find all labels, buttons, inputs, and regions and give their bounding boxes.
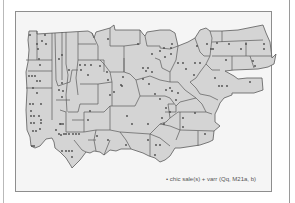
legend-dot-icon: •: [166, 176, 168, 182]
map-legend: • chic sale(s) + varr (Qq, M21a, b): [166, 176, 256, 182]
legend-text: chic sale(s) + varr (Qq, M21a, b): [170, 176, 256, 182]
map-landmass: [26, 25, 276, 168]
dot-distribution-map: [0, 0, 295, 203]
